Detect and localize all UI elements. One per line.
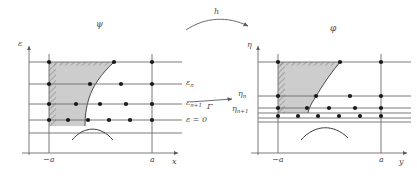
right-x-tick-a: a (379, 156, 384, 164)
left-level-n1-sub: n+1 (190, 102, 202, 108)
left-epsilon-axis-label: ε (18, 40, 22, 48)
left-x-tick-a: a (150, 156, 155, 164)
left-arc (72, 129, 113, 140)
right-level-n-sub: n (243, 93, 247, 99)
right-level-label-n: ηn (238, 90, 246, 98)
diagram-svg (0, 0, 417, 180)
right-eta-axis-label: η (247, 41, 252, 49)
left-level-n-sub: n (190, 82, 194, 88)
right-level-label-n1: ηn+1 (232, 105, 248, 113)
left-level-label-n1: εn+1 (186, 99, 202, 107)
figure-root: ψ ε −a a x εn εn+1 ε = 0 h Γ φ η −a a y … (0, 0, 417, 180)
h-arrow (186, 19, 248, 30)
left-shaded-region (49, 62, 114, 126)
left-x-tick-minus-a: −a (43, 156, 54, 164)
left-level-label-n: εn (186, 79, 194, 87)
gamma-arrow-label: Γ (207, 103, 213, 111)
right-panel-group (251, 46, 411, 155)
left-x-axis-label: x (172, 158, 177, 166)
right-shaded-region (278, 62, 340, 113)
right-arc (301, 128, 348, 140)
right-map-label: φ (330, 24, 336, 33)
h-arrow-label: h (214, 8, 219, 16)
left-panel-group (22, 46, 182, 155)
left-zero-level-label: ε = 0 (186, 116, 207, 124)
left-map-label: ψ (96, 20, 103, 29)
right-level-n1-sub: n+1 (237, 108, 249, 114)
right-y-axis-label: y (399, 158, 404, 166)
right-x-tick-minus-a: −a (272, 156, 283, 164)
